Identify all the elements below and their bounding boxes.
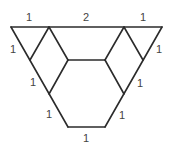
label-top-right: 1 [140, 11, 146, 23]
right-triangle-edge [124, 27, 143, 60]
trapezoid-diagram: 1 2 1 1 1 1 1 1 1 1 [0, 0, 172, 153]
left-triangle-edge [30, 27, 49, 60]
label-right-upper: 1 [156, 43, 162, 55]
label-right-lower: 1 [119, 109, 125, 121]
label-left-lower: 1 [46, 108, 52, 120]
left-rhombus-top-edge [49, 27, 68, 60]
left-rhombus-bottom-edge [49, 60, 68, 94]
label-top-middle: 2 [83, 11, 89, 23]
right-rhombus-top-edge [105, 27, 124, 60]
label-bottom: 1 [83, 132, 89, 144]
right-rhombus-bottom-edge [105, 60, 124, 94]
label-left-upper: 1 [10, 43, 16, 55]
label-top-left: 1 [26, 11, 32, 23]
label-left-middle: 1 [30, 76, 36, 88]
label-right-middle: 1 [137, 77, 143, 89]
